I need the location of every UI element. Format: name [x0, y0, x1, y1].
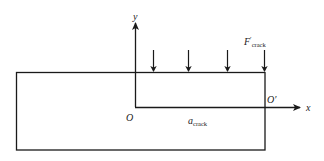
origin-label: O	[126, 112, 133, 123]
force-label: F′crack	[243, 35, 266, 48]
crack-length-label: acrack	[188, 115, 208, 127]
crack-diagram: y x O O′ acrack F′crack	[0, 0, 324, 161]
y-axis-label: y	[132, 11, 138, 22]
force-arrows	[154, 50, 265, 71]
body-rectangle	[17, 73, 266, 151]
origin-prime-label: O′	[267, 94, 277, 105]
x-axis-label: x	[305, 102, 311, 113]
